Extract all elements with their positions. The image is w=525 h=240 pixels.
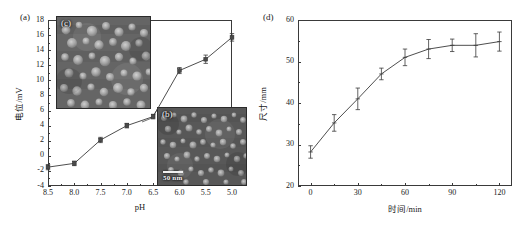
scale-bar-line: [163, 171, 183, 173]
x-minor-tick-mark: [429, 184, 430, 186]
x-minor-tick-mark: [476, 184, 477, 186]
x-tick-label: 60: [391, 188, 419, 197]
x-tick-mark: [358, 183, 359, 186]
inset-c-label: (c): [61, 18, 71, 28]
x-tick-mark: [311, 183, 312, 186]
x-minor-tick-mark: [334, 184, 335, 186]
x-tick-label: 30: [344, 188, 372, 197]
x-tick-label: 0: [297, 188, 325, 197]
scale-bar-label: 50 nm: [163, 174, 183, 182]
inset-b-scale-bar: 50 nm: [163, 171, 183, 182]
panel-d-x-ticks: 0306090120: [0, 0, 525, 240]
x-minor-tick-mark: [381, 184, 382, 186]
x-tick-mark: [452, 183, 453, 186]
x-tick-mark: [499, 183, 500, 186]
panel-d-x-axis-label: 时间/min: [365, 202, 445, 214]
panel-d: (d) 尺寸/mm 2030405060 0306090120 时间/min: [263, 0, 525, 240]
x-tick-mark: [405, 183, 406, 186]
inset-b-label: (b): [162, 109, 173, 119]
x-tick-label: 120: [485, 188, 513, 197]
x-tick-label: 90: [438, 188, 466, 197]
figure-root: (a) 电位/mV -4-2024681012141618 8.58.07.57…: [0, 0, 525, 240]
